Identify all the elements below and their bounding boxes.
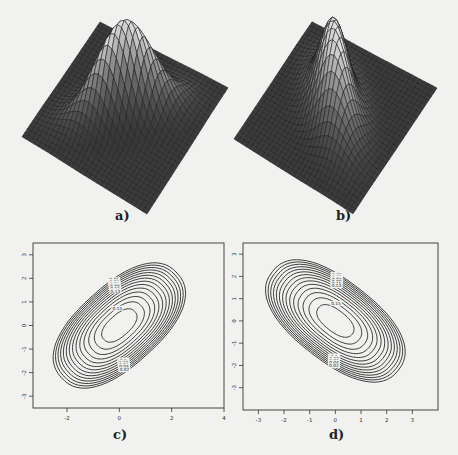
svg-text:0.02: 0.02 (120, 367, 130, 372)
svg-text:2: 2 (231, 275, 237, 279)
svg-text:-3: -3 (256, 417, 262, 423)
svg-text:-1: -1 (231, 340, 237, 345)
surface-b-svg (229, 0, 458, 225)
svg-text:-1: -1 (21, 346, 27, 351)
svg-text:0.13: 0.13 (111, 289, 121, 294)
svg-text:-3: -3 (231, 384, 237, 390)
svg-text:-2: -2 (64, 415, 69, 421)
svg-text:3: 3 (411, 417, 415, 423)
svg-text:0: 0 (118, 415, 122, 421)
svg-text:4: 4 (222, 415, 226, 421)
contour-plot-c: -20243210-1-2-30.010.030.050.070.090.110… (0, 230, 229, 455)
caption-b: b) (336, 208, 351, 223)
svg-text:1: 1 (21, 300, 27, 304)
svg-text:-3: -3 (21, 393, 27, 399)
svg-text:0: 0 (231, 319, 237, 323)
svg-text:2: 2 (385, 417, 389, 423)
svg-text:0: 0 (334, 417, 338, 423)
caption-a: a) (115, 208, 130, 223)
surface-plot-b (229, 0, 458, 225)
svg-text:0.15: 0.15 (113, 306, 123, 311)
svg-text:0.15: 0.15 (331, 301, 341, 306)
svg-text:0.02: 0.02 (329, 363, 339, 368)
contour-plot-d: -3-2-101233210-1-2-30.010.030.050.070.09… (228, 230, 458, 455)
svg-text:-2: -2 (281, 417, 286, 423)
svg-text:0.13: 0.13 (332, 283, 342, 288)
svg-text:0: 0 (21, 323, 27, 327)
caption-d: d) (329, 427, 344, 442)
svg-text:2: 2 (21, 277, 27, 281)
svg-text:-2: -2 (21, 370, 27, 375)
caption-c: c) (113, 427, 127, 442)
contour-d-svg: -3-2-101233210-1-2-30.010.030.050.070.09… (228, 230, 458, 455)
surface-plot-a (0, 0, 229, 225)
contour-c-svg: -20243210-1-2-30.010.030.050.070.090.110… (0, 230, 229, 455)
surface-a-svg (0, 0, 229, 225)
svg-text:2: 2 (170, 415, 174, 421)
svg-text:1: 1 (359, 417, 363, 423)
svg-text:-1: -1 (307, 417, 312, 423)
svg-text:3: 3 (21, 253, 27, 257)
svg-text:1: 1 (231, 297, 237, 301)
svg-text:-2: -2 (231, 363, 237, 368)
svg-text:3: 3 (231, 252, 237, 256)
